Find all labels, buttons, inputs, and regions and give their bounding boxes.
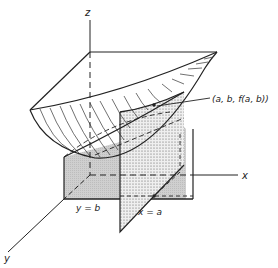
z-axis-label: z <box>84 7 91 18</box>
point-marker <box>152 103 156 107</box>
x-axis-label: x <box>241 170 248 181</box>
plane-x-label: x = a <box>137 207 162 217</box>
point-label: (a, b, f(a, b)) <box>212 94 269 104</box>
y-axis-label: y <box>3 253 11 264</box>
plane-y-label: y = b <box>75 203 101 213</box>
surface-diagram: z x y y = b x = a (a, b, f(a, b)) <box>0 0 278 268</box>
